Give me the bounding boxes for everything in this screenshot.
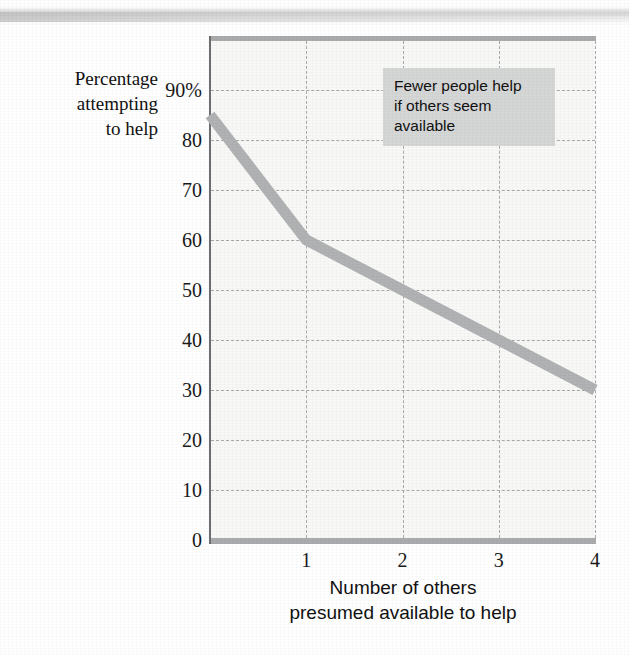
axis-top-rule [210,36,596,41]
y-axis-title: Percentage attempting to help [18,66,158,141]
y-axis-title-line-2: attempting [18,91,158,116]
y-tick-label-text: 50 [182,280,202,300]
x-tick-label: 4 [575,549,615,572]
y-tick-label-text: 20 [182,430,202,450]
gridline-vertical-right-edge [595,41,596,538]
y-tick-label-text: 30 [182,380,202,400]
scan-edge-shadow [0,12,629,22]
y-tick-label-text: 60 [182,230,202,250]
x-axis-title-line-1: Number of others [210,575,596,600]
y-tick-label-text: 70 [182,180,202,200]
axis-y-rule [209,36,211,544]
x-axis-title-line-2: presumed available to help [210,600,596,625]
gridline-vertical [306,41,307,538]
x-tick-label: 3 [479,549,519,572]
y-tick-label-text: 90% [165,80,202,100]
annotation-line-3: available [394,116,555,136]
axis-x-rule [210,538,596,544]
y-tick-label-text: 40 [182,330,202,350]
annotation-line-2: if others seem [394,96,555,116]
chart-figure: 0102030405060708090% 1234 Percentage att… [0,0,629,655]
y-axis-title-line-3: to help [18,116,158,141]
annotation-line-1: Fewer people help [394,76,555,96]
y-tick-label-text: 10 [182,480,202,500]
y-tick-label-text: 80 [182,130,202,150]
x-tick-label: 2 [383,549,423,572]
x-tick-label: 1 [286,549,326,572]
annotation-callout: Fewer people help if others seem availab… [383,68,555,146]
y-tick-label-text: 0 [192,530,202,550]
x-axis-title: Number of others presumed available to h… [210,575,596,625]
y-axis-title-line-1: Percentage [18,66,158,91]
